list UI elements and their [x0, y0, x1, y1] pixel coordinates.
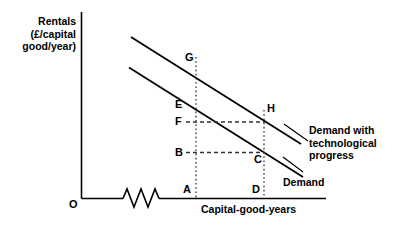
leader-line-demand-with-technological-progress: [284, 124, 308, 141]
origin-label: O: [69, 198, 78, 210]
curve-demand-with-technological-progress: [131, 37, 301, 144]
y-axis-title-line-3: good/year): [16, 40, 76, 53]
curve-label-line-1: Demand with: [309, 124, 377, 137]
y-axis-title-line-2: (£/capital: [16, 28, 76, 41]
point-label-C: C: [254, 153, 262, 165]
x-axis-title: Capital-good-years: [201, 203, 296, 216]
point-label-B: B: [175, 146, 183, 158]
curve-label-line-2: technological: [309, 137, 377, 150]
point-label-G: G: [185, 51, 194, 63]
point-label-F: F: [175, 115, 182, 127]
curve-label-demand: Demand: [283, 176, 324, 189]
curve-label-line-3: progress: [309, 149, 377, 162]
point-label-A: A: [183, 183, 191, 195]
rental-demand-diagram: Rentals (£/capital good/year) Capital-go…: [0, 0, 402, 233]
axis-break-zigzag-icon: [123, 189, 159, 207]
y-axis-title: Rentals (£/capital good/year): [16, 15, 76, 53]
point-label-E: E: [175, 98, 182, 110]
y-axis-title-line-1: Rentals: [16, 15, 76, 28]
point-label-H: H: [267, 102, 275, 114]
point-label-D: D: [252, 183, 260, 195]
curve-label-demand-with-technological-progress: Demand with technological progress: [309, 124, 377, 162]
